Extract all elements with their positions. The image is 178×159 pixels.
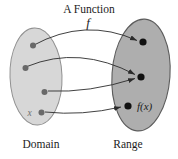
range-point-1 [139, 38, 146, 45]
range-point-3 [124, 102, 131, 109]
diagram-title: A Function [63, 3, 115, 15]
output-fx-label: f(x) [137, 100, 153, 113]
diagram-canvas: A Function f x f(x) Domain Range [0, 0, 178, 159]
range-label: Range [113, 138, 142, 151]
domain-point-2 [23, 65, 29, 71]
domain-point-1 [30, 43, 36, 49]
domain-point-4 [39, 110, 45, 116]
domain-point-3 [42, 89, 48, 95]
function-symbol-label: f [86, 15, 92, 30]
domain-label: Domain [22, 138, 59, 150]
input-x-label: x [26, 108, 32, 118]
domain-ellipse [8, 27, 63, 126]
function-mapping-figure: A Function f x f(x) Domain Range [0, 0, 178, 159]
range-point-2 [137, 73, 144, 80]
shapes-layer [8, 17, 174, 133]
